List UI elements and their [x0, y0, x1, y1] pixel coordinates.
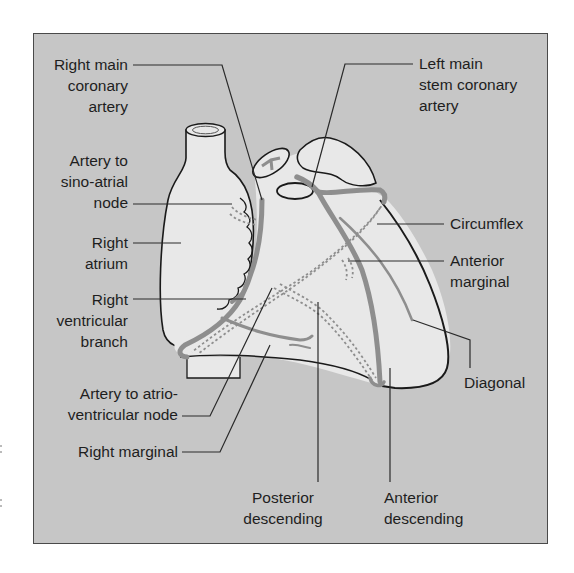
label-diagonal: Diagonal [464, 372, 544, 393]
label-left-main-stem-coronary-artery: Left main stem coronary artery [419, 53, 544, 116]
diagram-stage: Right main coronary artery Artery to sin… [0, 0, 574, 573]
edge-marks [0, 446, 2, 506]
label-right-main-coronary-artery: Right main coronary artery [36, 54, 128, 117]
label-circumflex: Circumflex [450, 213, 545, 234]
label-artery-to-sino-atrial-node: Artery to sino-atrial node [36, 150, 128, 213]
label-anterior-descending: Anterior descending [384, 487, 494, 529]
label-right-atrium: Right atrium [36, 232, 128, 274]
label-anterior-marginal: Anterior marginal [450, 250, 545, 292]
label-right-ventricular-branch: Right ventricular branch [36, 289, 128, 352]
label-right-marginal: Right marginal [36, 441, 178, 462]
label-artery-to-atrio-ventricular-node: Artery to atrio- ventricular node [36, 383, 178, 425]
label-posterior-descending: Posterior descending [228, 487, 338, 529]
